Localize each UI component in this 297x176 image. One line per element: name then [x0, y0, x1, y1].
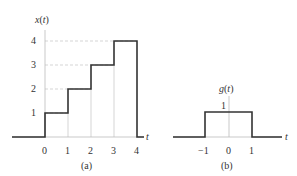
signal-g: [173, 112, 282, 137]
ytick-b-1: 1: [221, 100, 226, 111]
xtick-a-0: 0: [42, 145, 47, 156]
xtick-b-1: 1: [249, 145, 254, 156]
plot-b: g(t) 1 −1 0 1 t (b): [173, 83, 288, 172]
xtick-a-2: 2: [88, 145, 93, 156]
caption-a: (a): [81, 160, 92, 172]
ytick-a-2: 2: [31, 83, 36, 94]
ytick-a-1: 1: [31, 107, 36, 118]
caption-b: (b): [221, 160, 233, 172]
svg-text:x(t): x(t): [34, 14, 49, 26]
xtick-a-3: 3: [111, 145, 116, 156]
xtick-b-0: 0: [226, 145, 231, 156]
plot-a: x(t) 1 2 3 4 0 1 2 3 4 t (a): [12, 14, 149, 172]
ytick-a-3: 3: [31, 59, 36, 70]
ylabel-b: g(t): [219, 83, 233, 95]
xtick-a-4: 4: [134, 145, 139, 156]
ytick-a-4: 4: [31, 35, 36, 46]
xtick-a-1: 1: [65, 145, 70, 156]
xlabel-b: t: [285, 131, 288, 142]
xlabel-a: t: [146, 131, 149, 142]
xtick-b-neg1: −1: [198, 145, 209, 156]
